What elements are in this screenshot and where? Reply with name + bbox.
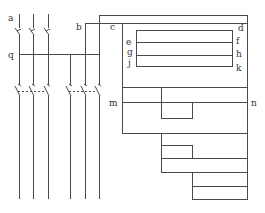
schematic-diagram: a b c d e f g h j k m n q (0, 0, 265, 213)
lower-switches (15, 82, 101, 199)
label-q: q (8, 50, 14, 60)
label-g: g (127, 47, 133, 57)
b-line (85, 24, 248, 83)
label-c: c (110, 22, 115, 32)
label-k: k (236, 63, 242, 73)
label-d: d (238, 23, 244, 33)
label-e: e (126, 37, 131, 47)
upper-feed-lines (15, 14, 50, 82)
inner-box (136, 31, 233, 67)
label-b: b (76, 22, 82, 32)
m-n-section (122, 87, 248, 134)
lower-steps (161, 133, 248, 200)
label-m: m (109, 98, 118, 108)
label-n: n (251, 98, 257, 108)
label-a: a (8, 13, 14, 23)
label-f: f (236, 36, 240, 46)
label-j: j (127, 58, 131, 68)
label-h: h (236, 49, 242, 59)
